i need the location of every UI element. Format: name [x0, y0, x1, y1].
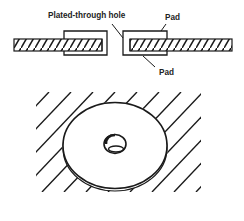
hatch-line	[0, 92, 5, 192]
perspective-view	[0, 92, 244, 192]
leader-hole	[112, 24, 123, 38]
leader-pad-bottom	[143, 56, 155, 67]
hatch-line	[196, 92, 244, 192]
pth-diagram: Plated-through hole Pad Pad	[0, 0, 244, 221]
hatch-line	[0, 92, 49, 192]
hatch-line	[0, 92, 27, 192]
cross-section: Plated-through hole Pad Pad	[14, 11, 232, 77]
hatch-line	[174, 92, 244, 192]
label-pad-bottom: Pad	[159, 68, 174, 77]
hole	[104, 135, 126, 154]
hatch-line	[218, 92, 244, 192]
hatch-line	[240, 92, 244, 192]
board-left	[14, 39, 102, 51]
leader-pad-top	[161, 24, 166, 31]
label-pad-top: Pad	[165, 13, 180, 22]
hatch-line	[0, 92, 71, 192]
board-right	[130, 39, 232, 51]
label-plated-through-hole: Plated-through hole	[48, 11, 126, 20]
